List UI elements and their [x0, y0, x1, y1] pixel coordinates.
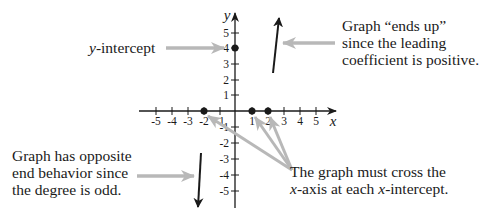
- svg-text:3: 3: [281, 115, 287, 127]
- svg-text:4: 4: [297, 115, 303, 127]
- y-axis-tick-labels: 5 4 3 2 1 -1 -2 -3 -4 -5: [219, 27, 229, 197]
- x-intercept-point-neg2: [201, 108, 208, 115]
- left-end-annotation: Graph has opposite end behavior since th…: [12, 148, 132, 198]
- svg-text:-5: -5: [219, 185, 229, 197]
- svg-text:-2: -2: [219, 137, 229, 149]
- y-intercept-point: [232, 45, 239, 52]
- right-end-up-arrow: [273, 18, 279, 73]
- x-axis-label: x: [329, 113, 337, 129]
- x-intercept-annotation: The graph must cross the x-axis at each …: [290, 164, 448, 198]
- svg-text:-3: -3: [183, 115, 193, 127]
- left-end-down-arrow: [198, 153, 201, 207]
- x-axis: -5 -4 -3 -2 -1 1 2 3 4 5 x: [139, 107, 337, 129]
- pointer-arrows: [137, 43, 335, 176]
- y-axis-label: y: [222, 7, 231, 23]
- svg-text:4: 4: [223, 42, 229, 54]
- svg-text:-4: -4: [219, 169, 229, 181]
- right-end-annotation: Graph “ends up” since the leading coeffi…: [342, 18, 479, 68]
- y-axis: 5 4 3 2 1 -1 -2 -3 -4 -5 y: [219, 7, 239, 208]
- svg-text:1: 1: [223, 89, 229, 101]
- svg-text:5: 5: [223, 27, 229, 39]
- y-intercept-label-rest: -intercept: [96, 39, 155, 56]
- svg-text:3: 3: [223, 58, 229, 70]
- svg-text:1: 1: [249, 115, 255, 127]
- x-intercept-annotation-line2: x-axis at each x-intercept.: [290, 181, 448, 198]
- svg-text:2: 2: [223, 74, 229, 86]
- svg-text:-5: -5: [151, 115, 161, 127]
- y-variable: y: [89, 39, 96, 56]
- y-intercept-annotation: y-intercept: [89, 40, 155, 57]
- x-intercept-point-1: [249, 108, 256, 115]
- svg-text:-3: -3: [219, 153, 229, 165]
- svg-text:-4: -4: [167, 115, 177, 127]
- svg-text:5: 5: [313, 115, 319, 127]
- x-intercept-point-2: [265, 108, 272, 115]
